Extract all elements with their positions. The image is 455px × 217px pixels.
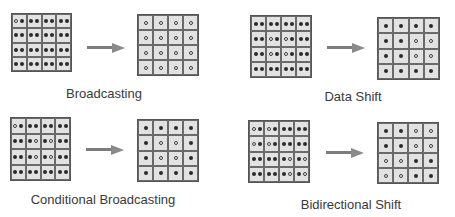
filled-dot-icon: [28, 139, 32, 143]
grid-cell: [27, 28, 42, 42]
grid-cell: [55, 118, 70, 134]
result-grid: [137, 14, 199, 76]
grid-cell: [281, 16, 296, 31]
hollow-dot-icon: [144, 66, 148, 70]
filled-dot-icon: [399, 39, 403, 43]
grid-cell: [183, 45, 198, 60]
filled-dot-icon: [290, 22, 294, 26]
filled-dot-icon: [28, 124, 32, 128]
hollow-dot-icon: [174, 141, 178, 145]
grid-cell: [42, 28, 57, 42]
grid-cell: [41, 149, 56, 165]
hollow-dot-icon: [414, 54, 418, 58]
grid-cell: [138, 120, 153, 135]
filled-dot-icon: [267, 157, 271, 161]
filled-dot-icon: [59, 33, 63, 37]
hollow-dot-icon: [174, 21, 178, 25]
filled-dot-icon: [254, 67, 258, 71]
filled-dot-icon: [269, 67, 273, 71]
filled-dot-icon: [35, 48, 39, 52]
filled-dot-icon: [290, 67, 294, 71]
filled-dot-icon: [34, 124, 38, 128]
filled-dot-icon: [290, 52, 294, 56]
grid-cell: [393, 18, 408, 33]
hollow-dot-icon: [159, 51, 163, 55]
hollow-dot-icon: [429, 39, 433, 43]
grid-cell: [183, 120, 198, 135]
grid-cell: [153, 60, 168, 75]
filled-dot-icon: [414, 24, 418, 28]
grid-cell: [12, 57, 27, 71]
hollow-dot-icon: [252, 127, 256, 131]
filled-dot-icon: [19, 139, 23, 143]
filled-dot-icon: [43, 170, 47, 174]
filled-dot-icon: [384, 39, 388, 43]
grid-cell: [296, 47, 311, 62]
filled-dot-icon: [50, 33, 54, 37]
grid-cell: [423, 168, 438, 183]
hollow-dot-icon: [159, 156, 163, 160]
hollow-dot-icon: [159, 141, 163, 145]
hollow-dot-icon: [49, 139, 53, 143]
filled-dot-icon: [297, 157, 301, 161]
filled-dot-icon: [64, 170, 68, 174]
grid-cell: [378, 138, 393, 153]
filled-dot-icon: [260, 67, 264, 71]
grid-cell: [183, 166, 198, 181]
grid-cell: [41, 118, 56, 134]
filled-dot-icon: [275, 67, 279, 71]
filled-dot-icon: [28, 170, 32, 174]
hollow-dot-icon: [288, 172, 292, 176]
filled-dot-icon: [275, 22, 279, 26]
grid-cell: [153, 30, 168, 45]
filled-dot-icon: [34, 170, 38, 174]
filled-dot-icon: [260, 22, 264, 26]
hollow-dot-icon: [384, 159, 388, 163]
filled-dot-icon: [282, 142, 286, 146]
grid-cell: [294, 136, 309, 151]
hollow-dot-icon: [267, 127, 271, 131]
grid-cell: [378, 64, 393, 79]
filled-dot-icon: [305, 22, 309, 26]
hollow-dot-icon: [189, 51, 193, 55]
filled-dot-icon: [282, 127, 286, 131]
filled-dot-icon: [29, 48, 33, 52]
filled-dot-icon: [399, 144, 403, 148]
grid-cell: [279, 152, 294, 167]
filled-dot-icon: [414, 159, 418, 163]
grid-cell: [138, 151, 153, 166]
filled-dot-icon: [384, 129, 388, 133]
hollow-dot-icon: [189, 36, 193, 40]
grid-cell: [294, 121, 309, 136]
grid-cell: [409, 49, 424, 64]
hollow-dot-icon: [252, 142, 256, 146]
filled-dot-icon: [305, 52, 309, 56]
grid-cell: [393, 64, 408, 79]
grid-cell: [12, 14, 27, 28]
source-grid: [248, 120, 310, 183]
hollow-dot-icon: [414, 144, 418, 148]
filled-dot-icon: [384, 69, 388, 73]
grid-cell: [423, 138, 438, 153]
hollow-dot-icon: [34, 155, 38, 159]
right-arrow-icon: [86, 145, 124, 155]
hollow-dot-icon: [49, 155, 53, 159]
grid-cell: [294, 167, 309, 182]
grid-cell: [168, 151, 183, 166]
filled-dot-icon: [399, 129, 403, 133]
filled-dot-icon: [288, 142, 292, 146]
filled-dot-icon: [299, 52, 303, 56]
filled-dot-icon: [20, 19, 24, 23]
grid-cell: [183, 30, 198, 45]
hollow-dot-icon: [284, 37, 288, 41]
filled-dot-icon: [273, 127, 277, 131]
grid-cell: [393, 168, 408, 183]
filled-dot-icon: [14, 48, 18, 52]
hollow-dot-icon: [159, 36, 163, 40]
filled-dot-icon: [144, 171, 148, 175]
filled-dot-icon: [258, 142, 262, 146]
grid-cell: [56, 28, 71, 42]
filled-dot-icon: [14, 62, 18, 66]
grid-cell: [264, 121, 279, 136]
filled-dot-icon: [65, 19, 69, 23]
